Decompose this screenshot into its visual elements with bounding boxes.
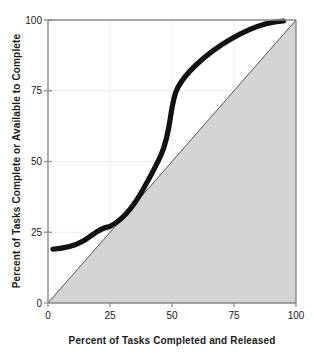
y-tick-label-50: 50 xyxy=(31,156,43,167)
y-tick-label-75: 75 xyxy=(31,85,43,96)
x-tick-label-50: 50 xyxy=(166,310,178,321)
chart-page: 0 25 50 75 100 0 25 50 75 100 Percent of… xyxy=(0,0,314,357)
chart-figure: 0 25 50 75 100 0 25 50 75 100 Percent of… xyxy=(0,0,314,357)
x-axis-title: Percent of Tasks Completed and Released xyxy=(69,335,276,346)
x-tick-label-100: 100 xyxy=(288,310,305,321)
x-tick-label-0: 0 xyxy=(45,310,51,321)
x-tick-label-25: 25 xyxy=(104,310,116,321)
y-axis-title: Percent of Tasks Complete or Available t… xyxy=(11,34,22,289)
y-tick-label-25: 25 xyxy=(31,227,43,238)
y-tick-label-0: 0 xyxy=(36,298,42,309)
y-tick-label-100: 100 xyxy=(25,15,42,26)
x-tick-label-75: 75 xyxy=(228,310,240,321)
